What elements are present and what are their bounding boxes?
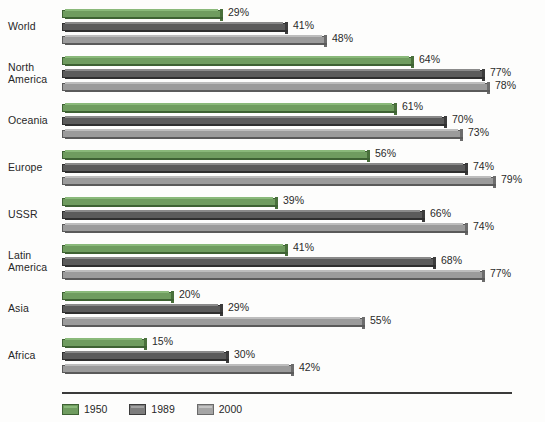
bar-body [62, 164, 465, 172]
face-bot-face [65, 64, 414, 66]
bar-body [62, 117, 444, 125]
bar-1989: 77% [62, 68, 482, 80]
face-bot-face [65, 124, 447, 126]
bar-value-label: 41% [293, 241, 314, 253]
bar-value-label: 74% [473, 160, 494, 172]
bar-value-label: 79% [501, 173, 522, 185]
face-top-face [65, 163, 463, 165]
face-top-face [65, 82, 485, 84]
face-end-face [285, 244, 288, 256]
face-end-face [411, 56, 414, 68]
bar-1950: 61% [62, 102, 394, 114]
face-end-face [144, 338, 147, 350]
bar-1989: 68% [62, 256, 433, 268]
bar-value-label: 55% [370, 314, 391, 326]
bar-body [62, 177, 493, 185]
bar-value-label: 66% [430, 207, 451, 219]
bar-2000: 48% [62, 34, 324, 46]
legend-swatch-icon [129, 404, 146, 415]
face-end-face [275, 197, 278, 209]
bar-group-row: LatinAmerica41%68%77% [0, 243, 545, 282]
category-label: NorthAmerica [8, 62, 60, 85]
bar-value-label: 20% [179, 288, 200, 300]
face-end-face [465, 163, 468, 175]
bar-value-label: 42% [299, 361, 320, 373]
face-bot-face [65, 346, 147, 348]
face-end-face [422, 210, 425, 222]
bar-group-row: USSR39%66%74% [0, 196, 545, 235]
bar-2000: 77% [62, 269, 482, 281]
bar-value-label: 73% [468, 126, 489, 138]
face-top-face [65, 197, 273, 199]
bar-1989: 66% [62, 209, 422, 221]
legend-item-1950[interactable]: 1950 [62, 403, 107, 415]
face-bot-face [65, 90, 490, 92]
category-label: Africa [8, 350, 60, 362]
bar-2000: 79% [62, 175, 493, 187]
face-bot-face [65, 265, 436, 267]
face-top-face [65, 35, 322, 37]
bar-value-label: 77% [490, 66, 511, 78]
bar-2000: 55% [62, 316, 362, 328]
legend-divider [62, 392, 512, 394]
bar-body [62, 10, 220, 18]
bar-value-label: 41% [293, 19, 314, 31]
face-top-face [65, 56, 409, 58]
bar-1989: 41% [62, 21, 285, 33]
bar-value-label: 30% [234, 348, 255, 360]
bar-group-row: NorthAmerica64%77%78% [0, 55, 545, 94]
bar-1989: 70% [62, 115, 444, 127]
legend-label: 1950 [84, 403, 107, 415]
bar-1950: 15% [62, 337, 144, 349]
face-top-face [65, 351, 224, 353]
face-end-face [362, 317, 365, 329]
face-bot-face [65, 158, 370, 160]
face-top-face [65, 364, 289, 366]
bar-2000: 78% [62, 81, 487, 93]
face-bot-face [65, 184, 496, 186]
bar-group-row: Oceania61%70%73% [0, 102, 545, 141]
category-label: World [8, 21, 60, 33]
face-top-face [65, 150, 365, 152]
bar-body [62, 305, 220, 313]
category-label: USSR [8, 209, 60, 221]
bar-group-row: Africa15%30%42% [0, 337, 545, 376]
face-top-face [65, 69, 480, 71]
bar-1950: 29% [62, 8, 220, 20]
bar-2000: 74% [62, 222, 465, 234]
bar-body [62, 292, 171, 300]
face-end-face [493, 176, 496, 188]
face-end-face [285, 22, 288, 34]
face-end-face [482, 270, 485, 282]
bar-value-label: 77% [490, 267, 511, 279]
face-bot-face [65, 299, 174, 301]
bar-body [62, 318, 362, 326]
face-top-face [65, 223, 463, 225]
face-top-face [65, 304, 218, 306]
face-end-face [324, 35, 327, 47]
face-top-face [65, 317, 360, 319]
bar-body [62, 151, 367, 159]
bar-body [62, 224, 465, 232]
bar-1950: 41% [62, 243, 285, 255]
bar-body [62, 36, 324, 44]
bar-body [62, 83, 487, 91]
face-end-face [394, 103, 397, 115]
face-end-face [487, 82, 490, 94]
face-end-face [433, 257, 436, 269]
face-top-face [65, 129, 458, 131]
face-bot-face [65, 278, 485, 280]
legend-swatch-icon [62, 404, 79, 415]
face-top-face [65, 210, 420, 212]
bar-body [62, 271, 482, 279]
face-end-face [367, 150, 370, 162]
legend-label: 2000 [219, 403, 242, 415]
face-end-face [482, 69, 485, 81]
face-top-face [65, 116, 442, 118]
chart-legend: 195019892000 [62, 400, 242, 418]
bar-body [62, 245, 285, 253]
legend-item-1989[interactable]: 1989 [129, 403, 174, 415]
legend-item-2000[interactable]: 2000 [197, 403, 242, 415]
face-bot-face [65, 312, 223, 314]
bar-2000: 73% [62, 128, 460, 140]
